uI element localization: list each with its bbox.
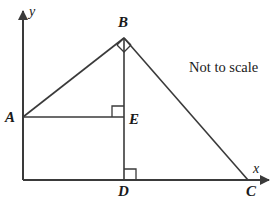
vertex-label-d: D xyxy=(118,184,129,199)
geometry-diagram: y x A B C D E Not to scale xyxy=(0,0,277,206)
geometry-canvas xyxy=(0,0,277,206)
right-angle-marker-e xyxy=(112,106,124,117)
not-to-scale-note: Not to scale xyxy=(189,60,258,75)
vertex-label-e: E xyxy=(129,112,139,127)
segment-ab xyxy=(23,38,124,117)
y-axis-label: y xyxy=(29,5,35,19)
vertex-label-c: C xyxy=(246,184,256,199)
vertex-label-a: A xyxy=(5,110,15,125)
vertex-label-b: B xyxy=(118,15,128,30)
right-angle-marker-d xyxy=(124,169,136,180)
x-axis-label: x xyxy=(253,162,259,176)
